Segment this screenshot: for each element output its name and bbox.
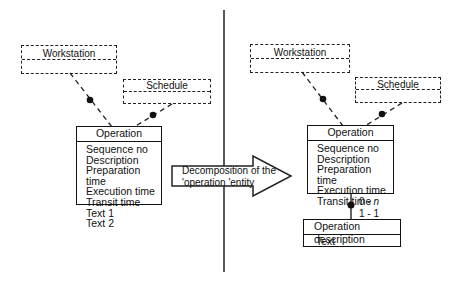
attribute-list: Sequence no Description Preparation time… [77,142,161,229]
optional-dot-icon [320,96,327,103]
arrow-label: Decomposition of the 'operation 'entity [182,165,276,189]
operation-entity-right: Operation Sequence no Description Prepar… [307,125,394,194]
entity-title: Operation [77,127,161,142]
attribute-list: Sequence no Description Preparation time… [308,141,393,207]
entity-title: Workstation [251,45,349,59]
entity-title: Operation [308,126,393,141]
attribute: Text 2 [86,218,161,229]
operation-entity-left: Operation Sequence no Description Prepar… [76,126,162,205]
attribute: Transit time [86,197,161,208]
attribute: Preparation time [317,164,393,185]
attribute: Sequence no [86,144,161,155]
workstation-entity-right: Workstation [250,44,350,73]
optional-dot-icon [150,112,157,119]
attribute: Preparation time [86,165,161,186]
entity-title: Workstation [22,46,116,60]
optional-dot-icon [379,111,386,118]
operation-description-entity: Operation description Text [303,219,401,247]
attribute: Sequence no [317,143,393,154]
workstation-entity-left: Workstation [21,45,117,74]
entity-title: Operation description [304,220,400,235]
cardinality-top: 0 - n [359,196,379,207]
cardinality-bottom: 1 - 1 [359,208,379,219]
attribute: Transit time [317,196,393,207]
entity-title: Schedule [356,78,440,90]
entity-title: Schedule [124,80,210,92]
optional-dot-icon [87,97,94,104]
schedule-entity-left: Schedule [123,79,211,104]
schedule-entity-right: Schedule [355,77,441,103]
